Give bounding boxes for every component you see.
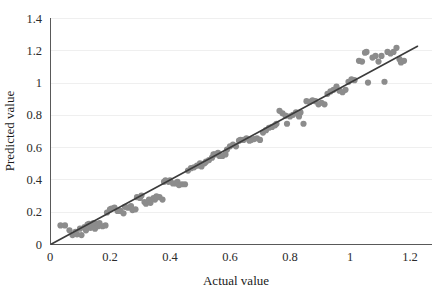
y-tick-labels-group: 00.20.40.60.811.21.4: [26, 12, 42, 252]
scatter-point: [321, 101, 327, 107]
scatter-point: [401, 58, 407, 64]
scatter-point: [375, 58, 381, 64]
y-tick-label: 1.4: [26, 12, 42, 26]
x-tick-label: 0.4: [162, 250, 178, 264]
scatter-point: [257, 137, 263, 143]
scatter-point: [300, 121, 306, 127]
scatter-point: [132, 206, 138, 212]
y-tick-label: 0.6: [26, 141, 42, 155]
scatter-point: [284, 121, 290, 127]
scatter-point: [381, 79, 387, 85]
scatter-point: [365, 79, 371, 85]
scatter-point: [102, 222, 108, 228]
scatter-point: [342, 87, 348, 93]
scatter-point: [78, 232, 84, 238]
x-tick-label: 0.8: [282, 250, 298, 264]
scatter-points-group: [57, 45, 407, 238]
y-tick-label: 0.2: [26, 205, 42, 219]
chart-canvas: 00.20.40.60.811.21.4 00.20.40.60.811.2 A…: [0, 0, 435, 294]
scatter-chart-figure: 00.20.40.60.811.21.4 00.20.40.60.811.2 A…: [0, 0, 435, 294]
y-tick-label: 1: [36, 76, 42, 90]
scatter-point: [182, 181, 188, 187]
y-tick-label: 1.2: [26, 44, 42, 58]
y-tick-label: 0.8: [26, 108, 42, 122]
regression-line: [52, 46, 418, 244]
x-tick-label: 1.2: [402, 250, 418, 264]
x-tick-label: 0.6: [222, 250, 238, 264]
scatter-point: [372, 53, 378, 59]
gridlines-group: [50, 19, 432, 213]
x-tick-label: 1: [347, 250, 353, 264]
scatter-point: [393, 45, 399, 51]
x-axis-title: Actual value: [203, 273, 269, 288]
y-axis-title: Predicted value: [2, 91, 17, 172]
scatter-point: [120, 210, 126, 216]
x-tick-label: 0: [47, 250, 53, 264]
scatter-point: [359, 58, 365, 64]
scatter-point: [159, 197, 165, 203]
y-tick-label: 0: [36, 238, 42, 252]
scatter-point: [62, 222, 68, 228]
scatter-point: [363, 49, 369, 55]
scatter-point: [378, 53, 384, 59]
x-tick-label: 0.2: [102, 250, 118, 264]
y-tick-label: 0.4: [26, 173, 42, 187]
regression-line-group: [52, 46, 418, 244]
x-tick-labels-group: 00.20.40.60.811.2: [47, 250, 418, 264]
